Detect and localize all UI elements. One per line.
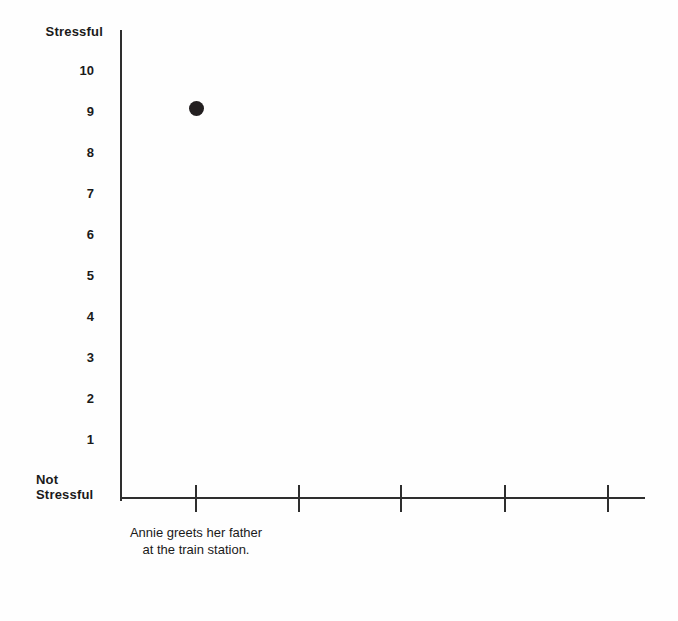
x-axis-tick-4 [504, 485, 506, 512]
y-tick-label-4: 4 [24, 310, 94, 324]
y-tick-label-3: 3 [24, 351, 94, 365]
y-tick-label-1: 1 [24, 433, 94, 447]
x-axis-tick-3 [400, 485, 402, 512]
x-axis-line [120, 497, 645, 499]
data-point-marker[interactable] [189, 101, 204, 116]
y-axis-low-anchor-line1: Not [36, 472, 126, 487]
y-tick-label-5: 5 [24, 269, 94, 283]
y-tick-label-10: 10 [24, 64, 94, 78]
x-axis-caption-1: Annie greets her father at the train sta… [123, 524, 269, 558]
x-axis-tick-2 [298, 485, 300, 512]
stress-scale-chart: Stressful Not Stressful 10 9 8 7 6 5 4 3… [0, 0, 678, 621]
y-axis-low-anchor-line2: Stressful [36, 487, 126, 502]
y-axis-line [120, 30, 122, 501]
y-tick-label-6: 6 [24, 228, 94, 242]
x-axis-tick-1 [195, 485, 197, 512]
y-tick-label-7: 7 [24, 187, 94, 201]
y-axis-high-anchor-label: Stressful [13, 24, 103, 39]
y-tick-label-9: 9 [24, 105, 94, 119]
y-axis-low-anchor-label: Not Stressful [36, 472, 126, 502]
y-tick-label-8: 8 [24, 146, 94, 160]
y-tick-label-2: 2 [24, 392, 94, 406]
x-axis-tick-5 [607, 485, 609, 512]
